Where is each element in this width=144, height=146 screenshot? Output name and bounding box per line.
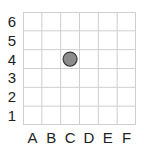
grid-lines [23, 12, 136, 125]
marker-circle [63, 52, 77, 66]
row-label: 6 [6, 14, 18, 29]
column-label: A [23, 130, 42, 145]
column-label: E [98, 130, 117, 145]
row-label: 4 [6, 52, 18, 67]
column-label: C [61, 130, 80, 145]
row-label: 5 [6, 33, 18, 48]
column-label: D [80, 130, 99, 145]
row-label: 2 [6, 89, 18, 104]
column-label: B [42, 130, 61, 145]
grid-markers [63, 52, 77, 66]
row-label: 3 [6, 70, 18, 85]
coordinate-grid [23, 12, 136, 125]
row-label: 1 [6, 108, 18, 123]
column-label: F [117, 130, 136, 145]
